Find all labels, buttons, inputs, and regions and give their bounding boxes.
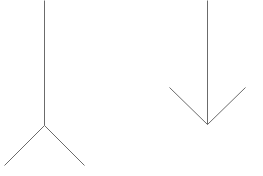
left-fin-left: [5, 126, 45, 166]
right-figure: [170, 1, 246, 125]
right-arrowhead-right: [208, 88, 246, 125]
left-fin-right: [45, 126, 85, 166]
right-arrowhead-left: [170, 88, 208, 125]
illusion-canvas: [0, 0, 263, 176]
left-figure: [5, 1, 85, 166]
